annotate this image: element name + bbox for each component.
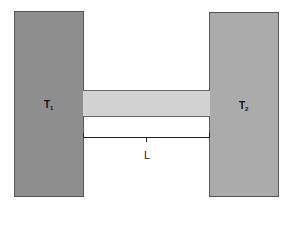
length-label: L	[144, 149, 150, 161]
t1-label: T1	[44, 99, 53, 111]
connecting-rod	[83, 90, 210, 117]
t2-label: T2	[239, 100, 248, 112]
length-bracket-icon	[83, 132, 210, 150]
